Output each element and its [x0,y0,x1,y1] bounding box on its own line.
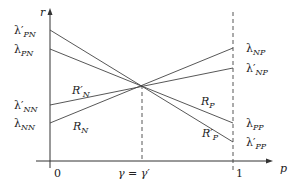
label-lambda-nn-prime: λ′NN [14,99,38,114]
label-lambda-np-prime: λ′NP [246,62,268,77]
label-lambda-pp: λPP [246,117,264,132]
label-r-n: RN [72,120,89,135]
label-r-n-prime: R′N [71,84,91,99]
label-lambda-nn: λNN [14,117,36,132]
label-lambda-pp-prime: λ′PP [246,136,267,151]
x-axis-arrow-icon [266,159,273,164]
right-labels: λNP λ′NP λPP λ′PP [246,42,268,151]
label-r-p: RP [200,95,215,110]
label-lambda-pn: λPN [14,43,34,58]
tick-label-gamma: γ = γ′ [118,167,150,180]
label-r-p-prime: R′P [201,127,219,142]
threshold-diagram: r p 0 γ = γ′ 1 λ′PN λPN λ′NN λNN λNP [0,0,296,189]
tick-label-1: 1 [236,167,243,180]
x-axis-label: p [280,162,287,175]
label-lambda-pn-prime: λ′PN [14,24,37,39]
line-labels: R′N RN RP R′P [71,84,219,142]
y-axis-arrow-icon [48,8,53,15]
label-lambda-np: λNP [246,42,266,57]
y-axis-label: r [40,6,46,19]
tick-label-0: 0 [54,167,61,180]
left-labels: λ′PN λPN λ′NN λNN [14,24,38,132]
